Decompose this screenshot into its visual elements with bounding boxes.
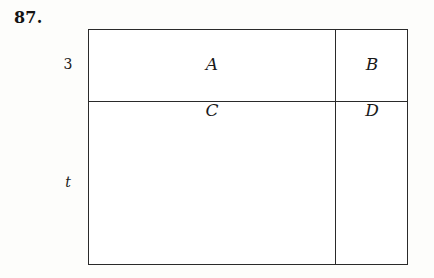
diagram-rectangle: A B C D: [88, 29, 408, 265]
region-label-d: D: [335, 102, 409, 119]
figure-root: 87. 3 t A B C D: [0, 0, 434, 278]
region-label-b: B: [335, 56, 409, 73]
problem-number: 87.: [14, 10, 42, 26]
divider-horizontal: [89, 101, 407, 102]
dimension-label-bottom-row: t: [57, 175, 79, 189]
divider-vertical: [335, 30, 336, 264]
region-label-c: C: [89, 102, 335, 119]
region-label-a: A: [89, 56, 335, 73]
dimension-label-top-row: 3: [57, 57, 79, 71]
